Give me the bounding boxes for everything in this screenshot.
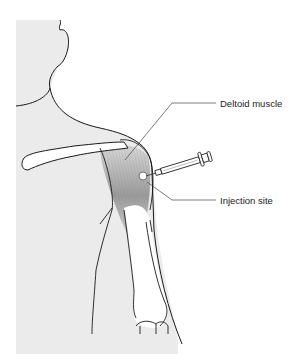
syringe-icon [144, 149, 213, 182]
injection-leader-line [147, 182, 216, 200]
injection-site-marker [139, 172, 147, 180]
anatomy-illustration [0, 0, 299, 354]
injection-site-label: Injection site [220, 196, 273, 206]
deltoid-muscle-label: Deltoid muscle [220, 99, 282, 109]
deltoid-injection-diagram: Deltoid muscle Injection site [0, 0, 299, 354]
